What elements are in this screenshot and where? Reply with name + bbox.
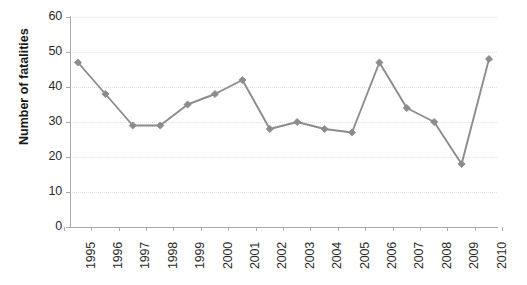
data-point-marker bbox=[266, 125, 273, 132]
y-axis-ticks bbox=[66, 17, 70, 227]
series-polyline bbox=[78, 59, 489, 164]
plot-area bbox=[0, 0, 527, 285]
data-point-marker bbox=[211, 90, 218, 97]
data-point-marker bbox=[485, 55, 492, 62]
data-point-marker bbox=[348, 129, 355, 136]
data-point-marker bbox=[294, 118, 301, 125]
chart-container: Number of fatalities 0102030405060 19951… bbox=[0, 0, 527, 285]
x-axis-ticks bbox=[64, 227, 502, 231]
data-point-marker bbox=[321, 125, 328, 132]
data-point-markers bbox=[74, 55, 492, 167]
data-point-marker bbox=[239, 76, 246, 83]
data-line-series bbox=[78, 59, 489, 164]
gridlines bbox=[70, 17, 498, 192]
